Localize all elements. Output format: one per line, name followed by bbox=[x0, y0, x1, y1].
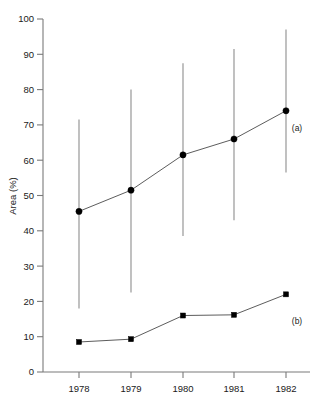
y-tick-label: 90 bbox=[23, 49, 34, 60]
data-point-marker bbox=[231, 136, 237, 142]
data-point-marker bbox=[284, 292, 289, 297]
data-point-marker bbox=[283, 108, 289, 114]
y-axis-title: Area (%) bbox=[7, 177, 18, 214]
y-tick-label: 40 bbox=[23, 225, 34, 236]
y-tick-label: 70 bbox=[23, 119, 34, 130]
y-tick-label: 10 bbox=[23, 331, 34, 342]
series-a-error-bars bbox=[79, 30, 286, 309]
x-tick-label: 1978 bbox=[68, 383, 89, 394]
data-point-marker bbox=[128, 187, 134, 193]
data-point-marker bbox=[77, 339, 82, 344]
chart-figure: 0102030405060708090100 19781979198019811… bbox=[0, 0, 322, 407]
series-b-label: (b) bbox=[292, 316, 303, 326]
y-tick-label: 30 bbox=[23, 261, 34, 272]
y-tick-label: 60 bbox=[23, 155, 34, 166]
y-tick-label: 50 bbox=[23, 190, 34, 201]
y-tick-label: 100 bbox=[18, 13, 34, 24]
x-tick-label: 1979 bbox=[120, 383, 141, 394]
data-point-marker bbox=[129, 337, 134, 342]
data-point-marker bbox=[232, 312, 237, 317]
y-tick-label: 20 bbox=[23, 296, 34, 307]
x-tick-label: 1981 bbox=[223, 383, 244, 394]
data-point-marker bbox=[180, 152, 186, 158]
series-a-label: (a) bbox=[292, 123, 303, 133]
x-tick-label: 1980 bbox=[172, 383, 193, 394]
x-tick-label: 1982 bbox=[275, 383, 296, 394]
data-point-marker bbox=[181, 313, 186, 318]
data-point-marker bbox=[76, 208, 82, 214]
series-b-markers bbox=[77, 292, 289, 345]
y-tick-label: 0 bbox=[29, 366, 34, 377]
chart-plot-area: 0102030405060708090100 19781979198019811… bbox=[0, 0, 322, 407]
y-axis-ticks: 0102030405060708090100 bbox=[18, 13, 43, 377]
y-tick-label: 80 bbox=[23, 84, 34, 95]
x-axis-ticks: 19781979198019811982 bbox=[68, 372, 296, 394]
